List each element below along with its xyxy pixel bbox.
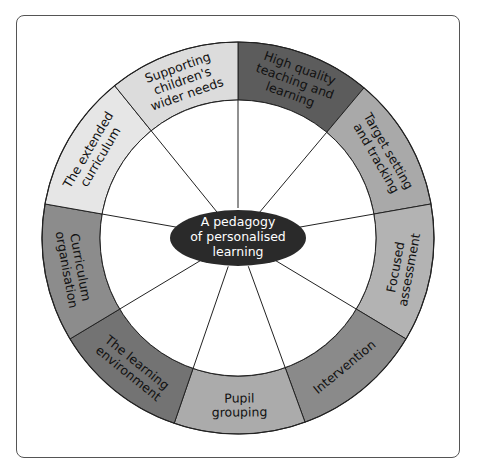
personalised-learning-wheel: High qualityteaching andlearningTarget s… (0, 0, 477, 472)
hub-label-line-3: learning (213, 244, 264, 259)
center-hub: A pedagogy of personalised learning (170, 210, 306, 266)
hub-label-line-2: of personalised (190, 229, 286, 244)
segment-label-line: grouping (212, 404, 268, 419)
hub-label-line-1: A pedagogy (201, 214, 276, 229)
segment-label-line: Pupil (224, 390, 254, 405)
